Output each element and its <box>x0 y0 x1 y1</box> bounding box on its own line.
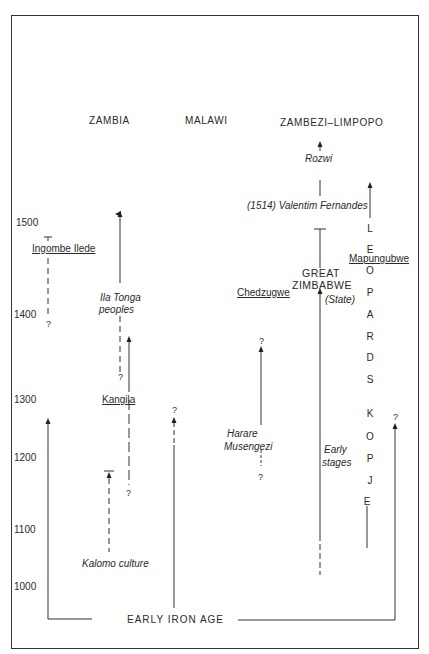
question-mark: ? <box>393 411 398 423</box>
label-early: Early <box>324 444 347 456</box>
header-malawi: MALAWI <box>185 115 228 127</box>
leopards-kopje-letter: D <box>365 352 375 363</box>
header-zambezi-limpopo: ZAMBEZI–LIMPOPO <box>280 117 383 129</box>
leopards-kopje-letter: O <box>365 431 375 442</box>
question-mark: ? <box>126 487 131 499</box>
leopards-kopje-letter: E <box>365 244 375 255</box>
label-state: (State) <box>325 294 355 306</box>
label-kalomo-culture: Kalomo culture <box>82 558 149 570</box>
leopards-kopje-letter: P <box>365 287 375 298</box>
year-1000: 1000 <box>14 581 36 593</box>
leopards-kopje-letter: K <box>365 408 375 419</box>
label-kangila: Kangila <box>102 394 135 406</box>
year-1200: 1200 <box>14 452 36 464</box>
label-early-iron-age: EARLY IRON AGE <box>127 614 224 626</box>
header-zambia: ZAMBIA <box>89 115 130 127</box>
label-mapungubwe: Mapungubwe <box>349 253 409 265</box>
year-1400: 1400 <box>14 309 36 321</box>
leopards-kopje-letter: O <box>365 265 375 276</box>
year-1500: 1500 <box>16 217 38 229</box>
label-harare: Harare <box>227 428 258 440</box>
leopards-kopje-letter: S <box>365 374 375 385</box>
label-musengezi: Musengezi <box>224 441 272 453</box>
label-stages: stages <box>322 457 351 469</box>
question-mark: ? <box>46 318 51 330</box>
label-valentim-fernandes: (1514) Valentim Fernandes <box>247 200 368 212</box>
label-ingombe-ilede: Ingombe Ilede <box>32 243 95 255</box>
timeline-lines <box>0 0 429 654</box>
question-mark: ? <box>118 371 123 383</box>
leopards-kopje-letter: A <box>365 309 375 320</box>
question-mark: ? <box>259 335 264 347</box>
leopards-kopje-letter: E <box>362 496 372 507</box>
leopards-kopje-letter: J <box>365 475 375 486</box>
leopards-kopje-letter: L <box>365 223 375 234</box>
label-great: GREAT <box>302 267 340 279</box>
label-ila-tonga-1: Ila Tonga <box>100 292 141 304</box>
label-rozwi: Rozwi <box>305 153 332 165</box>
label-ila-tonga-2: peoples <box>99 304 134 316</box>
leopards-kopje-letter: R <box>365 331 375 342</box>
label-chedzugwe: Chedzugwe <box>237 287 290 299</box>
leopards-kopje-letter: P <box>365 453 375 464</box>
question-mark: ? <box>172 404 177 416</box>
year-1300: 1300 <box>14 394 36 406</box>
question-mark: ? <box>258 471 263 483</box>
year-1100: 1100 <box>14 524 36 536</box>
label-zimbabwe: ZIMBABWE <box>292 279 352 291</box>
